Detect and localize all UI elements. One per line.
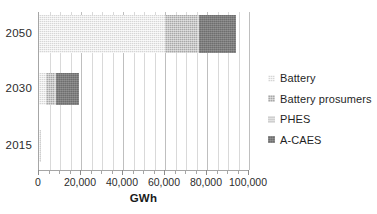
x-tick-minor (91, 170, 92, 174)
legend-label: Battery (280, 72, 316, 84)
x-tick-minor (143, 170, 144, 174)
bar-segment-battery (39, 73, 46, 105)
x-tick-label-1: 20,000 (64, 176, 96, 188)
bar-segment-a-caes (56, 73, 79, 105)
x-tick-major (38, 170, 39, 175)
legend: BatteryBattery prosumersPHESA-CAES (268, 68, 376, 150)
legend-swatch-icon (268, 75, 275, 82)
bar-stack-2050 (39, 15, 249, 53)
bar-segment-battery (39, 15, 165, 53)
bar-segment-a-caes (199, 15, 237, 53)
x-tick-label-4: 80,000 (190, 176, 222, 188)
x-tick-minor (217, 170, 218, 174)
x-tick-label-3: 60,000 (148, 176, 180, 188)
x-tick-minor (154, 170, 155, 174)
x-axis-title: GWh (38, 192, 249, 204)
y-axis-label-2015: 2015 (0, 139, 32, 151)
x-tick-major (80, 170, 81, 175)
bar-stack-2030 (39, 73, 249, 105)
x-tick-minor (196, 170, 197, 174)
x-tick-minor (238, 170, 239, 174)
x-tick-minor (185, 170, 186, 174)
stacked-bar-chart: 205020302015 020,00040,00060,00080,00010… (0, 0, 377, 214)
x-tick-minor (49, 170, 50, 174)
legend-item-a-caes[interactable]: A-CAES (268, 130, 376, 151)
x-tick-minor (70, 170, 71, 174)
x-tick-minor (175, 170, 176, 174)
legend-item-battery[interactable]: Battery (268, 68, 376, 89)
legend-label: A-CAES (280, 134, 322, 146)
legend-item-phes[interactable]: PHES (268, 109, 376, 130)
x-tick-label-5: 100,000 (229, 176, 267, 188)
legend-label: Battery prosumers (280, 93, 372, 105)
legend-label: PHES (280, 113, 310, 125)
x-tick-minor (227, 170, 228, 174)
x-tick-major (122, 170, 123, 175)
bar-segment-battery-prosumers (46, 73, 53, 105)
bar-stack-2015 (39, 130, 249, 162)
x-tick-minor (101, 170, 102, 174)
y-axis-label-2050: 2050 (0, 27, 32, 39)
x-tick-major (248, 170, 249, 175)
x-tick-minor (59, 170, 60, 174)
bar-segment-phes (40, 130, 41, 162)
x-tick-label-2: 40,000 (106, 176, 138, 188)
legend-swatch-icon (268, 136, 275, 143)
x-tick-major (206, 170, 207, 175)
x-tick-minor (133, 170, 134, 174)
plot-area (38, 12, 248, 170)
legend-swatch-icon (268, 116, 275, 123)
legend-item-battery-prosumers[interactable]: Battery prosumers (268, 89, 376, 110)
x-tick-major (164, 170, 165, 175)
legend-swatch-icon (268, 95, 275, 102)
bar-segment-battery-prosumers (165, 15, 197, 53)
x-tick-label-0: 0 (35, 176, 41, 188)
x-tick-minor (112, 170, 113, 174)
gridline-major (249, 12, 250, 170)
y-axis-label-2030: 2030 (0, 82, 32, 94)
